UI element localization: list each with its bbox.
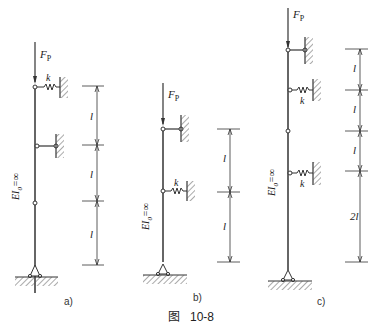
- wall-c2: [313, 79, 321, 101]
- dim-a-2: l: [90, 168, 93, 180]
- wall-a2: [56, 134, 64, 158]
- wall-c3: [313, 162, 321, 185]
- caption-c: c): [317, 296, 325, 307]
- spring-label-a: k: [46, 72, 50, 83]
- ground-c: [268, 281, 312, 290]
- spring-c2: [292, 170, 313, 176]
- spring-label-b: k: [174, 177, 178, 188]
- dim-c-4: 2l: [350, 210, 359, 222]
- hinge-c: [286, 129, 290, 133]
- dim-b-1: l: [223, 152, 226, 164]
- caption-a: a): [64, 296, 73, 307]
- dim-c-1: l: [353, 62, 356, 74]
- stiffness-label-b: EI0=∞: [140, 203, 154, 230]
- caption-b: b): [193, 292, 202, 303]
- stiffness-label-c: EI0=∞: [266, 169, 280, 196]
- wall-c1: [305, 37, 313, 64]
- dim-c-2: l: [353, 103, 356, 115]
- dim-a-3: l: [90, 228, 93, 240]
- panel-b: [143, 83, 240, 284]
- figure-title: 图 10-8: [168, 307, 214, 324]
- dim-c-3: l: [353, 144, 356, 156]
- ground-a: [15, 277, 58, 286]
- spring-c1: [292, 87, 313, 93]
- dim-b-2: l: [223, 220, 226, 232]
- stiffness-label-a: EI0=∞: [10, 173, 24, 200]
- spring-label-c1: k: [300, 95, 304, 106]
- load-label-a: FP: [40, 48, 51, 63]
- load-label-b: FP: [168, 88, 179, 103]
- spring-b: [165, 188, 187, 194]
- hinge-a: [33, 201, 37, 205]
- wall-b1: [181, 115, 189, 142]
- spring-label-c2: k: [300, 178, 304, 189]
- wall-b2: [187, 181, 195, 201]
- dim-a-1: l: [90, 110, 93, 122]
- wall-a1: [60, 77, 68, 98]
- spring-a: [37, 84, 60, 90]
- load-label-c: FP: [293, 8, 304, 23]
- diagram-canvas: [0, 0, 380, 327]
- ground-b: [143, 275, 187, 284]
